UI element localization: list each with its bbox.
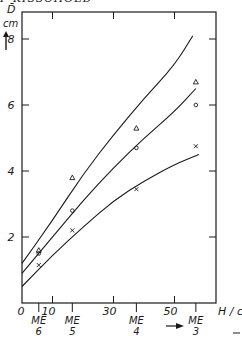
y-tick-label: 4 <box>8 165 15 178</box>
y-tick-label: 6 <box>8 99 15 112</box>
me-number: 6 <box>36 326 42 337</box>
arrowhead-icon <box>176 323 184 329</box>
me-label: ME <box>188 315 204 326</box>
me-number: 3 <box>193 326 199 337</box>
me-number: 4 <box>133 326 139 337</box>
plot-area: 2468D̄cm0103050H / cmME6ME5ME4ME3 <box>0 0 242 338</box>
me-label: ME <box>31 315 47 326</box>
x-tick-label: 50 <box>164 305 178 318</box>
x-marker-icon <box>70 228 74 232</box>
me-label: ME <box>65 315 81 326</box>
page-header-fragment: P KISSCHOLD <box>0 0 93 5</box>
circle-marker-icon <box>71 209 75 213</box>
curve-cross <box>22 155 199 287</box>
curve-triangle <box>22 36 193 264</box>
triangle-marker-icon <box>193 79 198 84</box>
x-axis-label: H / cm <box>218 305 242 318</box>
curve-circle <box>22 89 196 274</box>
y-axis-unit: cm <box>3 18 18 29</box>
x-marker-icon <box>37 263 41 267</box>
y-tick-label: 8 <box>8 33 15 46</box>
y-tick-label: 2 <box>8 231 15 244</box>
x-tick-label: 0 <box>18 305 25 318</box>
triangle-marker-icon <box>70 175 75 180</box>
x-tick-label: 30 <box>103 305 117 318</box>
x-marker-icon <box>194 144 198 148</box>
triangle-marker-icon <box>134 126 139 131</box>
x-marker-icon <box>134 187 138 191</box>
circle-marker-icon <box>194 103 198 107</box>
chart: P KISSCHOLD 2468D̄cm0103050H / cmME6ME5M… <box>0 0 242 338</box>
me-label: ME <box>129 315 145 326</box>
me-number: 5 <box>69 326 75 337</box>
circle-marker-icon <box>135 146 139 150</box>
plot-frame <box>22 12 216 303</box>
